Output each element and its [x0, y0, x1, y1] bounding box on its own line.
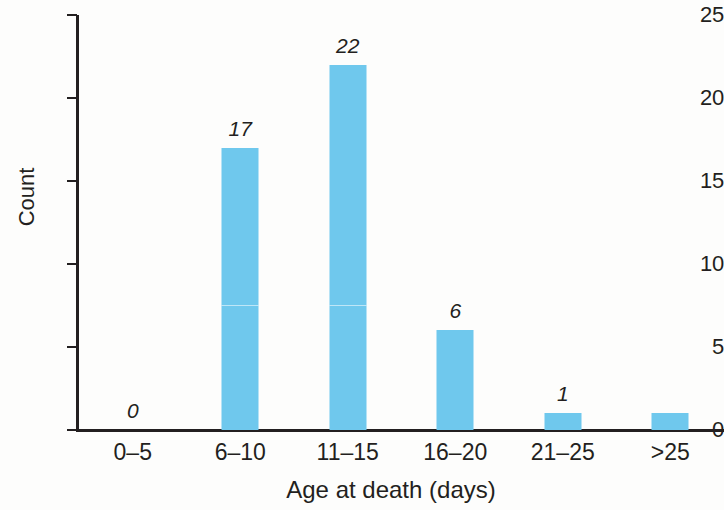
x-axis-title: Age at death (days) — [0, 478, 724, 502]
y-axis-tick — [67, 180, 77, 182]
y-axis-tick — [67, 97, 77, 99]
bar-slot: 6 — [402, 15, 510, 430]
bar-slot — [617, 15, 724, 430]
scan-artifact-line — [222, 305, 259, 306]
bar-slot: 17 — [187, 15, 295, 430]
bar-slot: 22 — [294, 15, 402, 430]
bar-value-label: 0 — [127, 400, 139, 421]
bar[interactable] — [329, 65, 366, 430]
x-axis-tick-label: 21–25 — [531, 441, 595, 464]
y-axis-tick — [67, 14, 77, 16]
x-axis-tick-labels: 0–56–1011–1516–2021–25>25 — [79, 441, 724, 471]
x-axis-tick-label: >25 — [651, 441, 690, 464]
bar-value-label: 22 — [336, 35, 359, 56]
bar[interactable] — [544, 413, 581, 430]
bar-chart-figure: 0510152025 Count 0172261 0–56–1011–1516–… — [0, 0, 724, 510]
y-axis-title: Count — [16, 137, 38, 257]
bar-value-label: 1 — [557, 383, 569, 404]
y-axis-tick — [67, 346, 77, 348]
plot-area: 0510152025 Count 0172261 0–56–1011–1516–… — [0, 0, 724, 510]
x-axis-tick-label: 0–5 — [114, 441, 152, 464]
bar[interactable] — [437, 330, 474, 430]
x-axis-title-text: Age at death (days) — [286, 476, 495, 503]
bar-slot: 0 — [79, 15, 187, 430]
bar-slot: 1 — [509, 15, 617, 430]
bar[interactable] — [652, 413, 689, 430]
bar-value-label: 17 — [229, 118, 252, 139]
bar-value-label: 6 — [449, 300, 461, 321]
bar[interactable] — [222, 148, 259, 430]
x-axis-tick-label: 6–10 — [215, 441, 266, 464]
bar-series: 0172261 — [79, 15, 724, 430]
y-axis-tick — [67, 429, 77, 431]
y-axis-tick — [67, 263, 77, 265]
x-axis-tick-label: 16–20 — [423, 441, 487, 464]
scan-artifact-line — [329, 305, 366, 306]
x-axis-tick-label: 11–15 — [317, 441, 379, 464]
